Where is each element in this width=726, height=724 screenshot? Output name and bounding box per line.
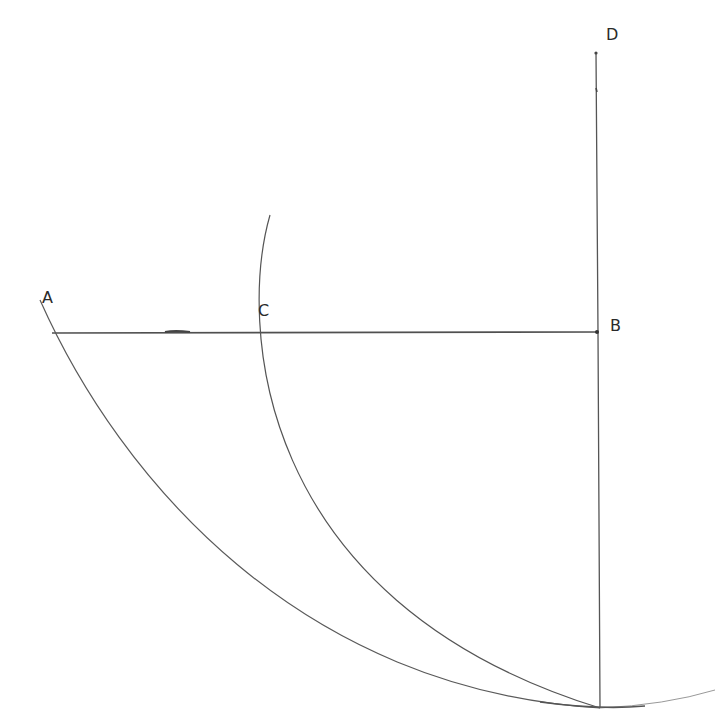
arc-bottom-overlap (540, 702, 645, 707)
line-ab-mark (165, 331, 190, 332)
label-c: C (258, 303, 269, 319)
line-ab (52, 332, 597, 333)
tick-d (596, 88, 597, 92)
label-d: D (606, 27, 618, 43)
diagram-canvas (0, 0, 726, 724)
arc-outer (40, 300, 600, 708)
point-b (595, 330, 599, 334)
label-a: A (42, 290, 53, 306)
label-b: B (610, 318, 621, 334)
arc-inner (259, 215, 600, 708)
point-d (594, 51, 597, 54)
line-d-bottom (596, 52, 600, 708)
arc-outer-tail (600, 690, 715, 708)
